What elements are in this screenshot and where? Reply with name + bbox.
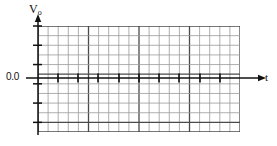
y-axis-label-text: V [29,2,38,16]
y-axis-label: Vo [29,3,42,17]
y-axis-label-subscript: o [38,8,42,17]
graph-figure: Vo t 0.0 [0,0,277,146]
graph-paper-grid [38,26,240,132]
grid-lines [38,26,240,132]
x-axis-label: t [265,72,268,83]
zero-value-label: 0.0 [6,72,19,82]
